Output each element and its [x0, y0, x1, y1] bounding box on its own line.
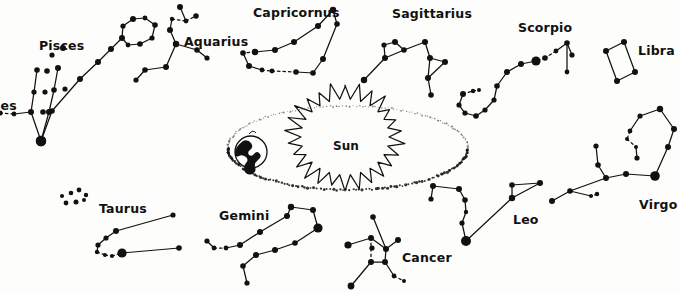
star [462, 110, 467, 115]
star [430, 183, 436, 189]
orbit-dot [260, 119, 261, 120]
orbit-dot [265, 116, 266, 117]
star [170, 17, 174, 21]
orbit-dot [446, 171, 449, 174]
orbit-dot [381, 187, 384, 190]
cluster-star [82, 198, 86, 202]
constellation-line [351, 262, 371, 286]
constellation-line [606, 42, 624, 51]
constellation-libra [603, 39, 638, 84]
star [428, 92, 434, 98]
orbit-dot [227, 143, 229, 145]
constellation-line [428, 62, 445, 78]
star-cluster-pleiades [60, 188, 88, 206]
star [344, 241, 351, 248]
star [152, 22, 158, 28]
star [253, 252, 259, 258]
star [564, 40, 570, 46]
orbit-dot [229, 138, 231, 140]
star [593, 143, 598, 148]
constellation-line [145, 67, 166, 70]
star [36, 136, 46, 146]
constellation-line [166, 44, 176, 67]
orbit-dot [281, 112, 282, 113]
orbit-dot [295, 110, 296, 111]
orbit-dot [306, 187, 309, 190]
constellation-label-capricornus: Capricornus [253, 7, 340, 20]
orbit-dot [374, 106, 376, 108]
orbit-dot [262, 177, 264, 179]
cluster-star [74, 200, 79, 205]
orbit-dot [413, 181, 415, 183]
constellation-line [570, 191, 591, 196]
star [348, 283, 355, 290]
star [204, 55, 209, 60]
star [549, 198, 555, 204]
orbit-dot [404, 183, 407, 186]
star [204, 238, 209, 243]
star [395, 237, 401, 243]
orbit-dot [295, 185, 297, 187]
constellation-line [34, 70, 37, 92]
orbit-dot [228, 140, 230, 142]
orbit-dot [264, 177, 267, 180]
constellation-line [240, 232, 260, 245]
orbit-dot [271, 115, 272, 116]
orbit-dot [278, 181, 280, 183]
constellation-line [364, 58, 385, 80]
orbit-dot [421, 180, 424, 183]
star [272, 247, 278, 253]
star [44, 68, 50, 74]
constellation-line [54, 68, 58, 90]
star [623, 171, 629, 177]
orbit-dot [273, 114, 274, 115]
orbit-dot [424, 180, 426, 182]
orbit-dot [465, 139, 466, 140]
orbit-dot [253, 173, 256, 176]
constellation-line [404, 42, 425, 50]
star [494, 83, 500, 89]
star [427, 55, 433, 61]
star [509, 182, 515, 188]
star [402, 279, 406, 283]
star [133, 77, 138, 82]
star [167, 27, 173, 33]
orbit-dot [457, 130, 459, 132]
star [422, 39, 428, 45]
star [334, 21, 340, 27]
orbit-dot [322, 106, 324, 108]
orbit-dot [458, 162, 461, 165]
orbit-dot [360, 188, 363, 191]
orbit-dot [399, 184, 401, 186]
orbit-dot [259, 119, 261, 121]
orbit-dot [292, 110, 293, 111]
orbit-dot [233, 135, 235, 137]
orbit-dot [448, 125, 449, 126]
star [565, 70, 570, 75]
star [442, 59, 448, 65]
orbit-dot [287, 111, 288, 112]
star [392, 274, 397, 279]
star [173, 41, 179, 47]
star [425, 75, 431, 81]
star [504, 69, 510, 75]
zodiac-diagram: SuniesPiscesAquariusCapricornusSagittari… [0, 0, 681, 294]
orbit-dot [234, 133, 235, 134]
star [284, 213, 290, 219]
star [477, 88, 481, 92]
constellation-label-gemini: Gemini [219, 210, 269, 223]
star [42, 89, 47, 94]
constellation-line [80, 62, 98, 79]
orbit-dot [406, 111, 407, 112]
orbit-dot [402, 109, 403, 110]
orbit-dot [458, 131, 459, 132]
star [244, 280, 249, 285]
orbit-dot [348, 189, 350, 191]
orbit-dot [275, 179, 278, 182]
star [361, 77, 367, 83]
constellation-label-pisces: Pisces [39, 40, 84, 53]
orbit-dot [434, 118, 436, 120]
star [193, 13, 199, 19]
constellation-line [275, 42, 294, 50]
constellation-line [385, 50, 404, 58]
